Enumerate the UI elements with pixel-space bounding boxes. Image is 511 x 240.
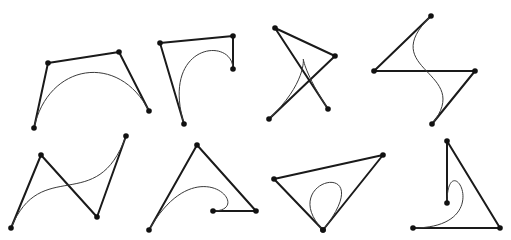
control-polygon	[413, 141, 500, 228]
control-point-3	[210, 208, 216, 214]
control-point-3	[230, 66, 236, 72]
bezier-panel-3	[266, 25, 338, 122]
bezier-panel-6	[146, 142, 259, 233]
control-point-2	[444, 138, 450, 144]
control-point-2	[271, 176, 277, 182]
control-point-3	[320, 227, 326, 233]
control-point-0	[181, 121, 187, 127]
control-point-2	[94, 214, 100, 220]
bezier-curve	[269, 59, 328, 119]
control-point-2	[472, 68, 478, 74]
bezier-panel-1	[31, 49, 152, 131]
control-point-3	[146, 108, 152, 114]
control-point-0	[428, 13, 434, 19]
control-point-1	[157, 40, 163, 46]
control-point-1	[371, 68, 377, 74]
control-polygon	[274, 155, 383, 230]
control-point-0	[31, 125, 37, 131]
control-point-1	[497, 225, 503, 231]
control-point-1	[332, 53, 338, 59]
bezier-curve	[179, 50, 233, 124]
control-polygon	[11, 136, 126, 228]
control-point-2	[272, 25, 278, 31]
control-point-3	[429, 121, 435, 127]
control-point-0	[266, 116, 272, 122]
control-polygon	[34, 52, 149, 128]
control-point-2	[230, 33, 236, 39]
control-point-3	[123, 133, 129, 139]
control-point-3	[444, 200, 450, 206]
control-point-2	[253, 208, 259, 214]
bezier-curve	[413, 181, 463, 228]
control-point-0	[410, 225, 416, 231]
control-polygon	[149, 145, 256, 230]
control-point-0	[8, 225, 14, 231]
bezier-panel-5	[8, 133, 129, 231]
bezier-curve	[310, 182, 342, 230]
bezier-curve	[34, 72, 149, 128]
control-point-1	[45, 60, 51, 66]
control-point-0	[146, 227, 152, 233]
control-point-1	[38, 152, 44, 158]
control-point-3	[325, 106, 331, 112]
bezier-panel-7	[271, 152, 386, 233]
control-point-1	[194, 142, 200, 148]
bezier-panel-8	[410, 138, 503, 231]
control-polygon	[160, 36, 233, 124]
control-polygon	[374, 16, 475, 124]
control-point-2	[116, 49, 122, 55]
bezier-panel-2	[157, 33, 236, 127]
bezier-panel-4	[371, 13, 478, 127]
control-point-1	[380, 152, 386, 158]
bezier-diagram	[0, 0, 511, 240]
